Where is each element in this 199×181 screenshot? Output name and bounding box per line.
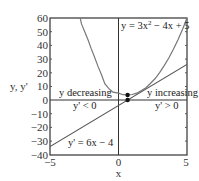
x-axis-label: x bbox=[116, 167, 122, 179]
y-axis-label: y, y' bbox=[10, 80, 28, 92]
x-tick-max: 5 bbox=[183, 156, 189, 168]
svg-text:0: 0 bbox=[43, 94, 49, 106]
minimum-point bbox=[125, 93, 129, 97]
derivative-zero-point bbox=[125, 98, 129, 102]
svg-text:10: 10 bbox=[37, 80, 49, 92]
y-tick-labels: 60 50 40 30 20 10 0 −10 −20 −30 −40 bbox=[31, 12, 49, 161]
svg-text:60: 60 bbox=[37, 12, 49, 24]
derivative-line-label: y' = 6x − 4 bbox=[68, 137, 114, 148]
chart: 60 50 40 30 20 10 0 −10 −20 −30 −40 −5 0… bbox=[0, 0, 199, 181]
svg-text:50: 50 bbox=[37, 26, 49, 38]
svg-text:−30: −30 bbox=[31, 135, 49, 147]
x-tick-min: −5 bbox=[44, 156, 56, 168]
pos-derivative-label: y' > 0 bbox=[155, 100, 179, 111]
svg-text:−20: −20 bbox=[31, 121, 49, 133]
neg-derivative-label: y' < 0 bbox=[73, 100, 97, 111]
curve-label: y = 3x2 − 4x + 5 bbox=[121, 19, 190, 31]
svg-text:40: 40 bbox=[37, 39, 49, 51]
svg-text:30: 30 bbox=[37, 53, 49, 65]
decreasing-label: y decreasing bbox=[59, 87, 113, 98]
parabola-curve bbox=[69, 0, 187, 95]
svg-text:20: 20 bbox=[37, 67, 49, 79]
increasing-label: y increasing bbox=[147, 87, 199, 98]
svg-text:−10: −10 bbox=[31, 108, 49, 120]
